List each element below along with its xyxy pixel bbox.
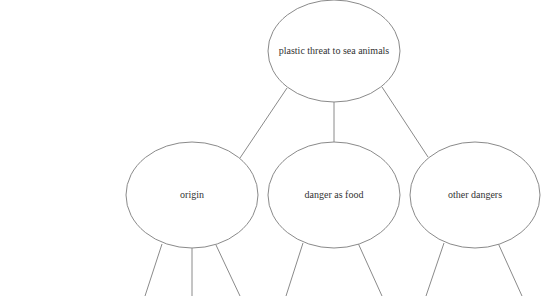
edge-other-dangers-child-1 [426,243,444,296]
edge-origin-child-1 [145,244,162,296]
node-root[interactable]: plastic threat to sea animals [268,0,400,102]
node-origin[interactable]: origin [126,142,258,248]
node-danger-as-food[interactable]: danger as food [268,142,400,248]
node-other-dangers[interactable]: other dangers [410,142,540,248]
node-danger-as-food-label: danger as food [305,189,364,200]
edge-danger-as-food-child-1 [286,243,303,296]
node-origin-label: origin [180,189,204,200]
edge-danger-as-food-child-2 [358,243,382,296]
mind-map-diagram: plastic threat to sea animals origin dan… [0,0,558,296]
edge-root-origin [240,88,287,158]
edge-origin-child-3 [216,245,240,296]
node-other-dangers-label: other dangers [448,189,502,200]
edge-root-other-dangers [382,87,428,157]
node-root-label: plastic threat to sea animals [279,45,390,56]
edge-other-dangers-child-2 [498,243,522,296]
